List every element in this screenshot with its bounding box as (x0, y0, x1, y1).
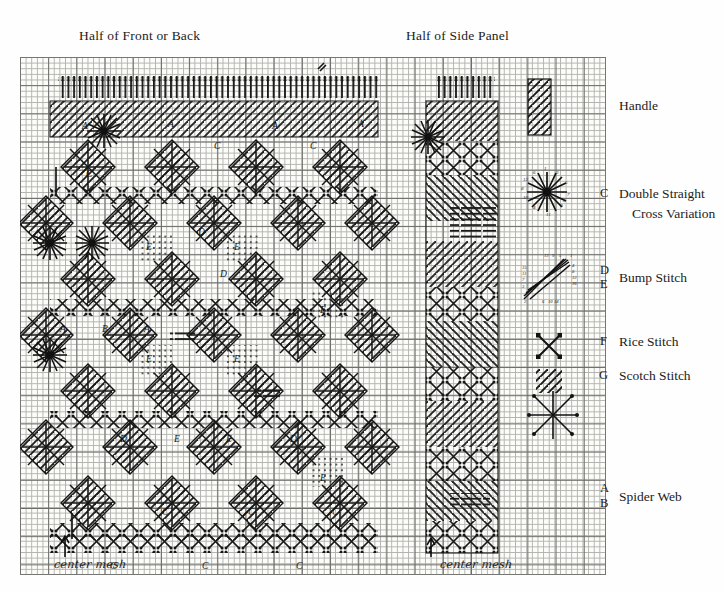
chart-letter-a: A (81, 121, 88, 131)
svg-text:8: 8 (572, 269, 575, 274)
svg-text:16: 16 (572, 281, 577, 286)
chart-letter-d: D (289, 434, 297, 444)
chart-letter-e: E (233, 242, 240, 252)
svg-text:1: 1 (570, 253, 572, 258)
chart-letter-a: A (143, 324, 150, 334)
legend-swatches: 13 57 911 410 812 62 139 (521, 79, 579, 439)
svg-text:12: 12 (523, 177, 529, 182)
svg-text:8: 8 (521, 186, 524, 191)
chart-letter-a: A (167, 119, 174, 129)
legend-label-spider-web: Spider Web (619, 488, 682, 505)
legend-label-handle: Handle (619, 97, 658, 114)
swatch-handle (528, 79, 551, 135)
stitch-chart-page: Half of Front or Back Half of Side Panel (0, 0, 723, 591)
svg-text:4: 4 (533, 205, 536, 210)
swatch-double-straight-cross: 13 57 911 410 812 62 (521, 166, 570, 217)
legend-key-b: B (600, 496, 608, 511)
svg-text:15: 15 (522, 265, 527, 270)
chart-letter-e: E (145, 354, 152, 364)
chart-letter-e: E (233, 354, 240, 364)
svg-text:9: 9 (552, 253, 555, 258)
svg-text:9: 9 (560, 203, 563, 208)
chart-letter-c: C (214, 141, 221, 151)
chart-letter-e: E (225, 434, 232, 444)
legend-key-g: G (599, 368, 608, 383)
chart-letter-e: E (319, 305, 326, 315)
svg-text:4: 4 (572, 263, 575, 268)
svg-text:1: 1 (544, 166, 547, 171)
svg-text:11: 11 (522, 271, 526, 276)
swatch-rice-stitch (536, 333, 562, 359)
legend-key-c: C (600, 186, 608, 201)
chart-letter-c: C (310, 141, 317, 151)
legend-label-bump-stitch: Bump Stitch (619, 269, 687, 286)
svg-text:13: 13 (544, 253, 549, 258)
legend-key-d: D (600, 263, 609, 278)
svg-text:6: 6 (533, 170, 536, 175)
svg-text:2: 2 (524, 299, 527, 304)
stitch-artwork: A A A A C C C E E D D E E E E A B A D E (20, 57, 606, 575)
side-panel-artwork (411, 76, 498, 553)
svg-text:10: 10 (548, 299, 553, 304)
chart-letter-a: A (271, 121, 278, 131)
svg-text:12: 12 (572, 275, 577, 280)
legend-label-double-straight: Double Straight (619, 185, 705, 202)
svg-text:14: 14 (554, 299, 559, 304)
chart-letter-d: D (219, 269, 227, 279)
legend-label-cross-variation: Cross Variation (632, 205, 715, 222)
chart-letter-a: A (59, 324, 66, 334)
svg-text:6: 6 (542, 299, 545, 304)
chart-letter-c: C (248, 507, 255, 517)
chart-letter-e: E (145, 242, 152, 252)
legend-label-scotch-stitch: Scotch Stitch (619, 367, 691, 384)
svg-text:11: 11 (546, 212, 551, 217)
chart-letter-c: C (296, 561, 303, 571)
chart-letter-a: A (357, 119, 364, 129)
panel-title-front-or-back: Half of Front or Back (79, 28, 200, 44)
panel-title-side: Half of Side Panel (406, 28, 509, 44)
legend-key-a: A (600, 481, 609, 496)
svg-text:3: 3 (522, 284, 525, 289)
chart-letter-d: D (119, 434, 127, 444)
chart-letter-d: D (197, 227, 205, 237)
chart-letter-c: C (162, 507, 169, 517)
chart-letter-b: B (102, 324, 108, 334)
swatch-scotch-stitch (536, 369, 562, 393)
chart-letter-e: E (319, 473, 326, 483)
svg-text:10: 10 (523, 195, 529, 200)
legend-key-f: F (600, 334, 607, 349)
center-mesh-note-front: center mesh (53, 558, 127, 571)
center-mesh-note-side: center mesh (439, 558, 513, 571)
svg-text:5: 5 (565, 180, 568, 185)
chart-letter-c: C (86, 169, 93, 179)
chart-letter-c: C (332, 507, 339, 517)
front-back-panel-artwork: A A A A C C C E E D D E E E E A B A D E (20, 63, 399, 571)
legend-key-e: E (600, 277, 608, 292)
swatch-bump-stitch: 139 51 1511 73 48 1216 26 1014 (522, 253, 577, 304)
chart-letter-c: C (202, 561, 209, 571)
legend-label-rice-stitch: Rice Stitch (619, 333, 679, 350)
svg-text:7: 7 (567, 192, 570, 197)
svg-text:5: 5 (559, 253, 562, 258)
chart-letter-e: E (173, 434, 180, 444)
swatch-spider-web (527, 391, 579, 439)
svg-text:7: 7 (522, 277, 525, 282)
svg-text:3: 3 (556, 170, 559, 175)
